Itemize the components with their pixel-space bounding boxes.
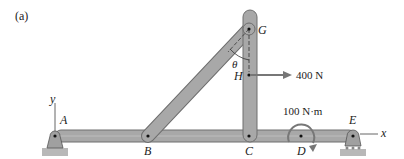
frame-diagram: (a) y θ x bbox=[0, 0, 404, 159]
label-c: C bbox=[245, 144, 254, 158]
pin-c bbox=[247, 134, 250, 137]
pin-d bbox=[299, 134, 302, 137]
x-axis-label: x bbox=[380, 126, 387, 140]
label-e: E bbox=[348, 113, 357, 127]
moment-label: 100 N·m bbox=[283, 105, 323, 117]
label-g: G bbox=[258, 23, 267, 37]
label-a: A bbox=[59, 113, 68, 127]
label-d: D bbox=[296, 144, 306, 158]
panel-label: (a) bbox=[15, 9, 28, 23]
roller-support-e bbox=[345, 130, 361, 150]
ground-a bbox=[42, 148, 68, 156]
pin-b bbox=[146, 134, 149, 137]
force-label: 400 N bbox=[296, 69, 323, 81]
label-h: H bbox=[233, 69, 244, 83]
y-axis-label: y bbox=[49, 92, 56, 106]
label-b: B bbox=[144, 144, 152, 158]
pin-g bbox=[247, 27, 250, 30]
ground-e bbox=[340, 149, 366, 156]
